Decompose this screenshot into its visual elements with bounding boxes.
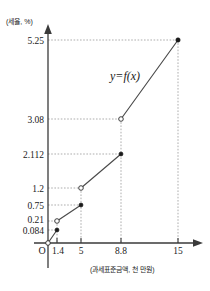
x-axis-arrow-icon bbox=[193, 239, 203, 247]
y-tick-label-2.112: 2.112 bbox=[23, 150, 44, 160]
y-tick-label-1.2: 1.2 bbox=[32, 184, 44, 194]
y-tick-label-5.25: 5.25 bbox=[27, 36, 44, 46]
point-closed-8.8-2.112 bbox=[119, 152, 123, 156]
x-tick-label-1.4: 1.4 bbox=[52, 246, 64, 256]
y-axis-arrow-icon bbox=[44, 24, 52, 34]
segment-1 bbox=[57, 205, 81, 221]
x-tick-label-5: 5 bbox=[79, 246, 84, 256]
x-tick-label-8.8: 8.8 bbox=[115, 246, 127, 256]
point-closed-15-5.25 bbox=[176, 38, 180, 42]
x-tick-label-15: 15 bbox=[173, 246, 183, 256]
point-open-0-0 bbox=[46, 241, 51, 246]
tax-rate-figure: 5.25 3.08 2.112 1.2 0.75 0.21 0.084 O 1.… bbox=[0, 0, 210, 291]
x-axis-caption: (과세표준금액, 천 만원) bbox=[90, 265, 155, 274]
y-tick-label-0.21: 0.21 bbox=[27, 215, 44, 225]
function-label: y=f(x) bbox=[109, 69, 140, 83]
point-closed-1.4-0.084 bbox=[55, 228, 59, 232]
origin-label: O bbox=[38, 245, 45, 256]
y-tick-label-0.75: 0.75 bbox=[27, 201, 44, 211]
x-tick-labels: O 1.4 5 8.8 15 bbox=[38, 245, 183, 256]
y-axis-caption: (세율, %) bbox=[6, 17, 33, 26]
point-open-1.4-0.21 bbox=[55, 219, 60, 224]
piecewise-function-chart: 5.25 3.08 2.112 1.2 0.75 0.21 0.084 O 1.… bbox=[0, 0, 210, 291]
segment-2 bbox=[81, 154, 121, 188]
y-tick-labels: 5.25 3.08 2.112 1.2 0.75 0.21 0.084 bbox=[23, 36, 45, 236]
x-ticks bbox=[57, 238, 178, 243]
y-tick-label-0.084: 0.084 bbox=[23, 226, 45, 236]
y-tick-label-3.08: 3.08 bbox=[27, 115, 44, 125]
point-open-5-1.2 bbox=[79, 186, 84, 191]
point-open-8.8-3.08 bbox=[119, 117, 124, 122]
point-closed-5-0.75 bbox=[79, 203, 83, 207]
